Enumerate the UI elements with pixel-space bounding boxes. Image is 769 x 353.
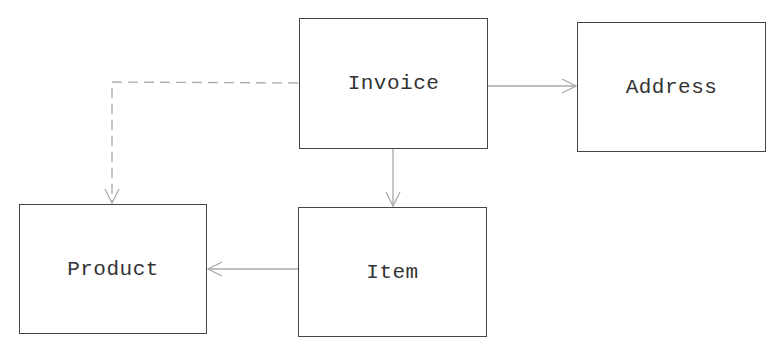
- edge-invoice-product-dashed: [105, 82, 298, 203]
- node-address[interactable]: Address: [577, 22, 766, 152]
- edge-invoice-address: [488, 79, 576, 93]
- edge-item-product: [208, 262, 298, 276]
- node-item-label: Item: [366, 261, 418, 284]
- node-address-label: Address: [626, 76, 718, 99]
- edge-invoice-item: [386, 149, 400, 206]
- diagram-canvas: Invoice Address Product Item: [0, 0, 769, 353]
- node-product-label: Product: [67, 258, 159, 281]
- node-item[interactable]: Item: [298, 207, 487, 337]
- node-invoice[interactable]: Invoice: [299, 18, 488, 149]
- node-product[interactable]: Product: [19, 204, 207, 334]
- node-invoice-label: Invoice: [348, 72, 440, 95]
